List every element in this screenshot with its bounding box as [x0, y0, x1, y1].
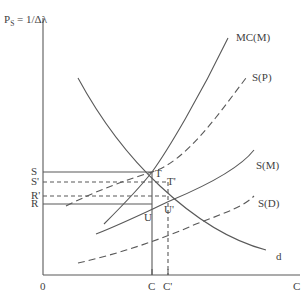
y-axis-label-rest: = 1/Δλ: [14, 13, 47, 25]
point-label-T-prime: T': [167, 176, 176, 187]
point-label-U-prime: U': [164, 204, 174, 215]
diagram-svg: [0, 0, 308, 305]
y-mark-label-S-prime: S': [31, 176, 39, 187]
x-axis-label: C: [293, 281, 300, 292]
curve-label-s-d: S(D): [258, 198, 279, 209]
curve-s-m: [96, 150, 254, 234]
x-tick-label-C-prime: C': [163, 281, 172, 292]
curve-s-p: [66, 78, 246, 206]
y-mark-label-R: R: [31, 198, 38, 209]
point-label-U: U: [144, 212, 152, 223]
curve-label-d: d: [276, 251, 282, 262]
y-axis-label: PS = 1/Δλ: [4, 14, 47, 28]
origin-label: 0: [40, 281, 46, 292]
curve-label-mc-m: MC(M): [236, 32, 270, 43]
x-tick-label-C: C: [148, 281, 155, 292]
point-label-T: T: [155, 168, 162, 179]
curve-label-s-m: S(M): [256, 160, 279, 171]
curve-d: [78, 78, 266, 250]
figure-canvas: PS = 1/Δλ 0 C C C' S S' R' R MC(M) S(P) …: [0, 0, 308, 305]
curve-label-s-p: S(P): [252, 72, 272, 83]
